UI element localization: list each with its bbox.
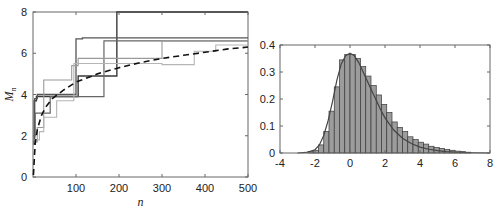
x-tick-label: 2 xyxy=(382,157,388,169)
y-tick-label: 6 xyxy=(21,47,27,59)
sample-path-5 xyxy=(34,45,248,140)
sample-path-3 xyxy=(33,41,248,136)
sample-path-2 xyxy=(33,38,248,142)
histogram-bar xyxy=(361,67,366,153)
x-tick-label: -2 xyxy=(310,157,320,169)
histogram-bar xyxy=(340,60,345,153)
x-tick-label: 200 xyxy=(110,182,128,194)
histogram-bar xyxy=(408,137,413,153)
y-tick-label: 0.2 xyxy=(260,93,275,105)
x-tick-label: 400 xyxy=(196,182,214,194)
x-tick-label: 300 xyxy=(153,182,171,194)
histogram-bar xyxy=(355,59,360,154)
sample-path-4 xyxy=(34,41,248,142)
y-tick-label: 0 xyxy=(21,171,27,183)
left-y-axis-label: Mn xyxy=(2,88,18,103)
x-tick-label: 500 xyxy=(239,182,257,194)
histogram-bar xyxy=(376,95,381,153)
histogram-chart: -4-202468 00.10.20.30.4 xyxy=(260,39,493,169)
x-tick-label: 100 xyxy=(67,182,85,194)
x-tick-label: 4 xyxy=(417,157,423,169)
x-tick-label: 8 xyxy=(487,157,493,169)
figure-canvas: 100200300400500 02468 n Mn -4-202468 00.… xyxy=(0,0,501,214)
histogram-bar xyxy=(319,145,324,153)
histogram-bar xyxy=(387,113,392,154)
left-x-axis-label: n xyxy=(138,195,144,209)
left-series-group xyxy=(33,12,248,175)
y-tick-label: 4 xyxy=(21,89,27,101)
histogram-bar xyxy=(397,127,402,153)
running-maximum-chart: 100200300400500 02468 n Mn xyxy=(2,6,257,209)
y-tick-label: 0.4 xyxy=(260,39,275,51)
sample-path-1 xyxy=(33,12,248,144)
left-x-ticks: 100200300400500 xyxy=(67,12,257,194)
y-tick-label: 8 xyxy=(21,6,27,18)
histogram-bar xyxy=(334,87,339,153)
y-tick-label: 2 xyxy=(21,130,27,142)
y-tick-label: 0.3 xyxy=(260,66,275,78)
histogram-bar xyxy=(345,54,350,153)
y-tick-label: 0 xyxy=(269,147,275,159)
x-tick-label: 0 xyxy=(347,157,353,169)
x-tick-label: 6 xyxy=(452,157,458,169)
y-tick-label: 0.1 xyxy=(260,120,275,132)
histogram-bar xyxy=(329,111,334,153)
x-tick-label: -4 xyxy=(275,157,285,169)
histogram-bar xyxy=(392,122,397,153)
expected-value-curve xyxy=(33,47,248,175)
histogram-bar xyxy=(403,131,408,153)
histogram-bar xyxy=(350,54,355,153)
